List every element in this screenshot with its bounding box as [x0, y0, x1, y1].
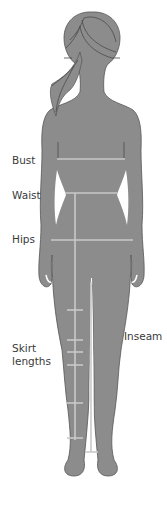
female-silhouette-figure: [0, 0, 167, 505]
bust-label: Bust: [12, 154, 35, 167]
hips-label: Hips: [12, 233, 35, 246]
waist-label: Waist: [12, 189, 41, 202]
inseam-label: Inseam: [124, 330, 162, 343]
skirt-lengths-label-line2: lengths: [12, 355, 51, 368]
skirt-lengths-label-line1: Skirt: [12, 342, 36, 355]
